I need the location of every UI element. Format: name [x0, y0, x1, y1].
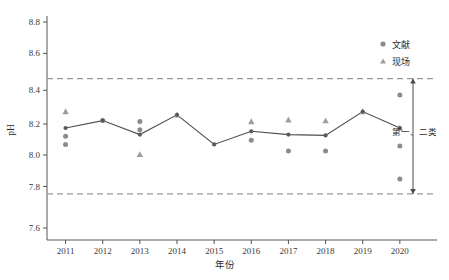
y-tick-label: 7.8 — [29, 182, 41, 192]
y-tick-label: 8.4 — [29, 85, 41, 95]
y-axis-ticks: 8.8 8.6 8.4 8.2 8.0 7.8 7.6 — [29, 17, 47, 233]
trend-point-marker — [249, 129, 253, 133]
field-data-point — [62, 108, 68, 114]
literature-data-point — [323, 149, 328, 154]
x-tick-label: 2019 — [354, 246, 373, 256]
literature-data-point — [286, 149, 291, 154]
x-tick-label: 2020 — [391, 246, 410, 256]
trend-point-marker — [101, 118, 105, 122]
trend-point-marker — [323, 133, 327, 137]
trend-point-marker — [63, 126, 67, 130]
plot-axes — [47, 16, 437, 240]
literature-data-point — [63, 134, 68, 139]
chart-legend: 文献 现场 — [380, 39, 410, 67]
literature-data-point — [137, 127, 142, 132]
trend-point-marker — [175, 113, 179, 117]
trend-polyline — [66, 112, 400, 145]
x-tick-label: 2015 — [205, 246, 224, 256]
class-range-label: 第一、二类 — [392, 127, 437, 137]
field-data-point — [248, 118, 254, 124]
reference-lines — [47, 79, 437, 194]
x-axis-ticks: 2011201220132014201520162017201820192020 — [57, 240, 410, 256]
x-tick-label: 2013 — [131, 246, 150, 256]
field-data-point — [137, 151, 143, 157]
literature-data-point — [63, 142, 68, 147]
literature-data-point — [397, 144, 402, 149]
literature-data-point — [397, 93, 402, 98]
trend-point-marker — [361, 109, 365, 113]
literature-data-point — [137, 119, 142, 124]
literature-data-point — [397, 177, 402, 182]
trend-line-series — [66, 112, 400, 145]
trend-point-marker — [138, 132, 142, 136]
y-axis-title: pH — [6, 124, 16, 136]
range-arrow-head-up — [410, 79, 416, 84]
x-axis-title: 年份 — [215, 259, 235, 270]
x-tick-label: 2014 — [168, 246, 187, 256]
x-tick-label: 2011 — [57, 246, 75, 256]
legend-triangle-icon — [380, 59, 386, 64]
field-data-point — [322, 117, 328, 123]
field-scatter-series — [62, 108, 403, 157]
legend-label-field: 现场 — [392, 57, 410, 67]
literature-scatter-series — [63, 93, 402, 182]
trend-line-markers — [63, 109, 401, 146]
range-arrow-head-down — [410, 189, 416, 194]
y-tick-label: 8.8 — [29, 17, 41, 27]
x-tick-label: 2016 — [242, 246, 261, 256]
literature-data-point — [249, 138, 254, 143]
trend-point-marker — [212, 142, 216, 146]
x-tick-label: 2018 — [317, 246, 336, 256]
chart-canvas: 8.8 8.6 8.4 8.2 8.0 7.8 7.6 201120122013… — [0, 0, 449, 280]
legend-circle-icon — [380, 41, 385, 46]
y-tick-label: 7.6 — [29, 223, 41, 233]
x-tick-label: 2012 — [94, 246, 112, 256]
ph-trend-chart: 8.8 8.6 8.4 8.2 8.0 7.8 7.6 201120122013… — [0, 0, 449, 280]
trend-point-marker — [286, 132, 290, 136]
field-data-point — [285, 117, 291, 123]
y-tick-label: 8.6 — [29, 48, 41, 58]
x-tick-label: 2017 — [279, 246, 298, 256]
y-tick-label: 8.2 — [29, 119, 40, 129]
legend-label-literature: 文献 — [392, 39, 410, 50]
y-tick-label: 8.0 — [29, 150, 41, 160]
